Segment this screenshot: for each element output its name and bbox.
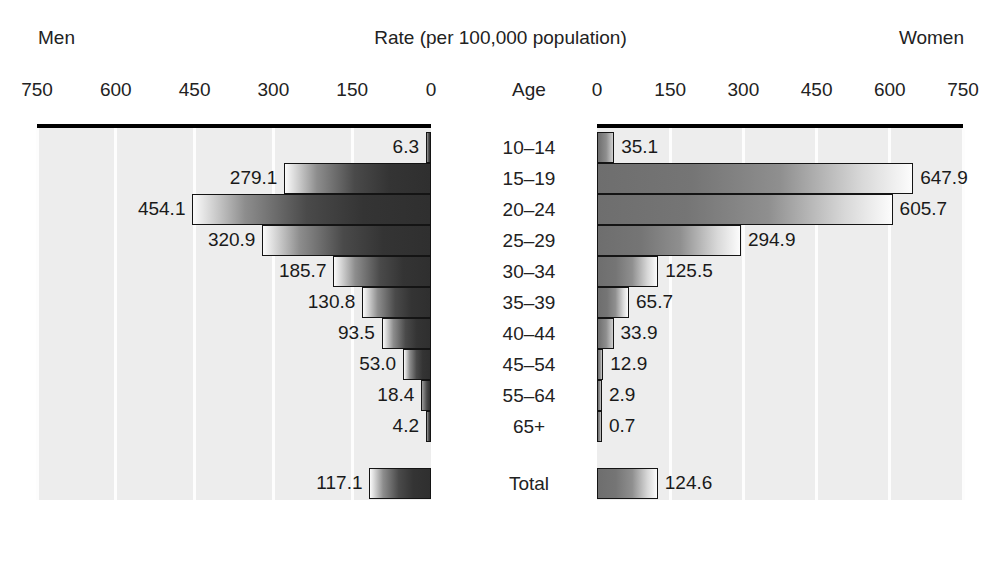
- bar-women-35–39: [597, 287, 629, 318]
- bar-value-label: 117.1: [316, 472, 369, 494]
- bar-men-25–29: [262, 225, 431, 256]
- age-label-40–44: 40–44: [464, 318, 594, 349]
- bar-men-40–44: [382, 318, 431, 349]
- right-tick-450: 450: [801, 79, 833, 101]
- bar-value-label: 35.1: [614, 136, 658, 158]
- bar-women-40–44: [597, 318, 614, 349]
- bar-row: 185.7: [37, 256, 431, 287]
- bar-women-30–34: [597, 256, 658, 287]
- bar-women-25–29: [597, 225, 741, 256]
- age-label-20–24: 20–24: [464, 194, 594, 225]
- bar-value-label: 18.4: [377, 384, 421, 406]
- bar-row: 320.9: [37, 225, 431, 256]
- bar-men-20–24: [192, 194, 431, 225]
- bar-row: 454.1: [37, 194, 431, 225]
- right-tick-750: 750: [947, 79, 979, 101]
- age-label-35–39: 35–39: [464, 287, 594, 318]
- age-label-10–14: 10–14: [464, 132, 594, 163]
- bar-men-45–54: [403, 349, 431, 380]
- bar-row: 279.1: [37, 163, 431, 194]
- bar-men-10–14: [426, 132, 431, 163]
- men-plot-area: 6.3279.1454.1320.9185.7130.893.553.018.4…: [37, 128, 431, 500]
- bar-value-label: 65.7: [629, 291, 673, 313]
- bar-row: 605.7: [597, 194, 963, 225]
- bar-men-30–34: [333, 256, 431, 287]
- bar-value-label: 125.5: [658, 260, 713, 282]
- bar-row: 35.1: [597, 132, 963, 163]
- bar-value-label: 53.0: [359, 353, 403, 375]
- bar-value-label: 647.9: [913, 167, 968, 189]
- bar-men-35–39: [362, 287, 431, 318]
- age-label-30–34: 30–34: [464, 256, 594, 287]
- bar-value-label: 33.9: [614, 322, 658, 344]
- bar-row: 12.9: [597, 349, 963, 380]
- bar-value-label: 12.9: [603, 353, 647, 375]
- bar-value-label: 0.7: [602, 415, 635, 437]
- bar-value-label: 320.9: [208, 229, 263, 251]
- age-label-45–54: 45–54: [464, 349, 594, 380]
- chart-title: Rate (per 100,000 population): [0, 27, 1001, 49]
- bar-value-label: 93.5: [338, 322, 382, 344]
- bar-row: 130.8: [37, 287, 431, 318]
- bar-women-20–24: [597, 194, 893, 225]
- bar-value-label: 185.7: [279, 260, 334, 282]
- bar-row: 0.7: [597, 411, 963, 442]
- bar-men-65+: [426, 411, 431, 442]
- bar-women-Total: [597, 468, 658, 499]
- women-plot-area: 35.1647.9605.7294.9125.565.733.912.92.90…: [597, 128, 963, 500]
- bar-row: 2.9: [597, 380, 963, 411]
- bar-row: 18.4: [37, 380, 431, 411]
- bar-value-label: 6.3: [393, 136, 426, 158]
- bar-value-label: 130.8: [308, 291, 363, 313]
- bar-row: 4.2: [37, 411, 431, 442]
- age-label-55–64: 55–64: [464, 380, 594, 411]
- right-tick-150: 150: [654, 79, 686, 101]
- age-label-25–29: 25–29: [464, 225, 594, 256]
- bar-row: 117.1: [37, 468, 431, 499]
- bar-value-label: 294.9: [741, 229, 796, 251]
- bar-row: 53.0: [37, 349, 431, 380]
- bar-row: 6.3: [37, 132, 431, 163]
- bar-value-label: 605.7: [893, 198, 948, 220]
- bar-row: 647.9: [597, 163, 963, 194]
- bar-men-55–64: [421, 380, 431, 411]
- age-label-Total: Total: [464, 468, 594, 499]
- age-label-65+: 65+: [464, 411, 594, 442]
- bar-value-label: 454.1: [138, 198, 193, 220]
- age-label-15–19: 15–19: [464, 163, 594, 194]
- bar-value-label: 4.2: [393, 415, 426, 437]
- right-tick-300: 300: [728, 79, 760, 101]
- bar-value-label: 279.1: [230, 167, 285, 189]
- bar-women-15–19: [597, 163, 913, 194]
- bar-value-label: 2.9: [602, 384, 635, 406]
- bar-row: 294.9: [597, 225, 963, 256]
- bar-row: 124.6: [597, 468, 963, 499]
- bar-row: 125.5: [597, 256, 963, 287]
- bar-row: 93.5: [37, 318, 431, 349]
- bar-men-Total: [369, 468, 431, 499]
- right-tick-600: 600: [874, 79, 906, 101]
- women-header-label: Women: [899, 27, 964, 49]
- bar-women-10–14: [597, 132, 614, 163]
- bar-row: 65.7: [597, 287, 963, 318]
- bar-row: 33.9: [597, 318, 963, 349]
- age-column-header: Age: [464, 79, 594, 101]
- bar-value-label: 124.6: [658, 472, 713, 494]
- bar-men-15–19: [284, 163, 431, 194]
